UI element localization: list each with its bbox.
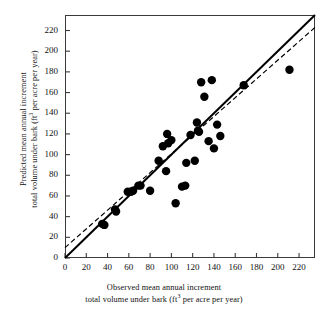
data-point: [182, 159, 190, 167]
data-point: [216, 132, 224, 140]
data-point: [167, 136, 175, 144]
y-tick-label: 0: [32, 252, 58, 262]
data-point: [213, 120, 221, 128]
y-tick-label: 20: [32, 231, 58, 241]
y-tick-label: 160: [32, 87, 58, 97]
data-point: [171, 199, 179, 207]
data-point: [200, 92, 208, 100]
data-point: [197, 78, 205, 86]
data-point: [162, 167, 170, 175]
data-point: [240, 81, 248, 89]
data-point: [210, 144, 218, 152]
y-tick-label: 140: [32, 107, 58, 117]
data-point: [181, 181, 189, 189]
data-point: [195, 128, 203, 136]
data-point: [112, 207, 120, 215]
data-point: [193, 118, 201, 126]
data-points: [98, 66, 294, 230]
scatter-plot-figure: Predicted mean annual increment total vo…: [0, 0, 328, 314]
data-point: [100, 221, 108, 229]
y-tick-label: 220: [32, 25, 58, 35]
data-point: [208, 76, 216, 84]
y-tick-label: 180: [32, 66, 58, 76]
y-tick-label: 100: [32, 149, 58, 159]
y-tick-label: 60: [32, 190, 58, 200]
y-tick-label: 120: [32, 128, 58, 138]
data-point: [146, 187, 154, 195]
data-point: [204, 137, 212, 145]
data-point: [154, 157, 162, 165]
y-tick-label: 40: [32, 211, 58, 221]
x-tick-label: 220: [286, 262, 312, 272]
data-point: [186, 131, 194, 139]
data-point: [191, 157, 199, 165]
data-point: [136, 181, 144, 189]
y-tick-label: 200: [32, 45, 58, 55]
data-point: [285, 66, 293, 74]
y-tick-label: 80: [32, 169, 58, 179]
